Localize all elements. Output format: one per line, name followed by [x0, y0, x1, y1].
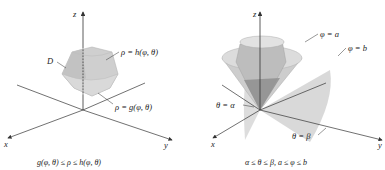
lower-surface-label: ρ = g(φ, θ)	[114, 102, 152, 112]
upper-surface-label: ρ = h(φ, θ)	[120, 47, 158, 57]
y-axis-label: y	[163, 140, 168, 150]
region-d-solid	[62, 47, 118, 96]
right-figure: z x y φ = a φ = b θ = α θ = β α ≤ θ ≤ β,…	[210, 9, 382, 167]
z-axis-label: z	[72, 9, 77, 19]
x-axis	[8, 110, 83, 138]
y-axis	[83, 110, 172, 140]
right-caption: α ≤ θ ≤ β, a ≤ φ ≤ b	[245, 158, 307, 167]
region-label: D	[46, 56, 54, 66]
cone-b-label: φ = b	[348, 43, 367, 53]
x-axis-label: x	[3, 139, 8, 149]
spherical-regions-diagram: z x y D ρ = h(φ, θ) ρ = g(φ, θ) g(φ, θ) …	[0, 0, 385, 170]
y-axis-label-right: y	[377, 140, 382, 150]
left-caption: g(φ, θ) ≤ ρ ≤ h(φ, θ)	[37, 158, 101, 167]
plane-alpha-label: θ = α	[216, 100, 235, 110]
plane-beta-label: θ = β	[292, 131, 311, 141]
left-figure: z x y D ρ = h(φ, θ) ρ = g(φ, θ) g(φ, θ) …	[3, 9, 172, 167]
cone-a-label: φ = a	[320, 29, 339, 39]
x-axis-label-right: x	[210, 139, 215, 149]
z-axis-label-right: z	[252, 9, 257, 19]
